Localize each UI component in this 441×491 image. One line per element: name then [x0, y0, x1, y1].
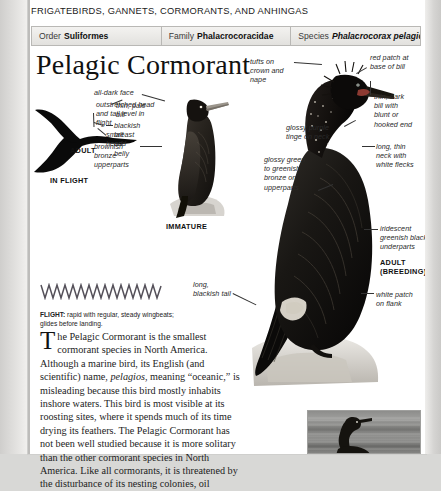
age-label-adult-breeding: ADULT (BREEDING) [380, 258, 426, 276]
page-title: Pelagic Cormorant [36, 49, 250, 81]
taxonomy-label-family: Family [169, 31, 194, 41]
taxonomy-bar: Order Suliformes Family Phalacrocoracida… [31, 26, 421, 46]
callout-white-patch: white patch on flank [376, 290, 426, 308]
page-right-edge [425, 0, 441, 454]
page-gutter [28, 0, 30, 454]
leader-white-patch [361, 293, 374, 294]
callout-long-thin-neck: long, thin neck with white flecks [376, 142, 424, 170]
flight-pattern-squiggle [40, 283, 162, 300]
leader-iridescent [364, 229, 378, 230]
age-label-adult-flight: ADULT [70, 146, 96, 155]
taxonomy-label-species: Species [298, 31, 329, 41]
page-sheet: FRIGATEBIRDS, GANNETS, CORMORANTS, AND A… [28, 0, 426, 454]
description-part-b: , meaning “oceanic,” is misleading becau… [40, 371, 240, 489]
immature-bird-illustration [168, 88, 230, 220]
callout-thin-pale-bill: thin, pale bill [116, 101, 156, 119]
running-head: FRIGATEBIRDS, GANNETS, CORMORANTS, AND A… [31, 6, 423, 16]
adult-breeding-bird-illustration [248, 52, 394, 392]
drop-cap: T [40, 330, 57, 351]
taxonomy-cell-family: Family Phalacrocoracidae [162, 27, 292, 45]
age-label-adult: ADULT [380, 258, 406, 267]
habitat-photo [307, 410, 421, 454]
callout-glossy-green: glossy green to greenish bronze on upper… [264, 155, 320, 192]
taxonomy-value-species: Phalacrocorax pelagicus [332, 31, 420, 41]
callout-red-patch: red patch at base of bill [370, 53, 426, 71]
taxonomy-value-family: Phalacrocoracidae [197, 31, 273, 41]
callout-thin-dark-bill: thin, dark bill with blunt or hooked end [374, 92, 424, 129]
age-label-breeding: (BREEDING) [380, 267, 426, 276]
leader-brownish [140, 146, 162, 147]
habitat-photo-image [308, 411, 421, 454]
species-description: The Pelagic Cormorant is the smallest co… [40, 330, 245, 491]
callout-tufts: tufts on crown and nape [250, 57, 296, 85]
leader-thin-dark-bill [370, 81, 371, 95]
leader-long-thin-neck [362, 146, 375, 147]
taxonomy-cell-order: Order Suliformes [32, 27, 162, 45]
callout-all-dark-face: all-dark face [94, 88, 148, 97]
taxonomy-label-order: Order [39, 31, 61, 41]
page-left-edge [0, 0, 28, 454]
flight-label: FLIGHT: [40, 311, 65, 318]
callout-glossy-purple: glossy purple tinge on neck [286, 123, 344, 141]
description-italic-term: pelagios [110, 371, 145, 382]
taxonomy-cell-species: Species Phalacrocorax pelagicus [291, 27, 420, 45]
age-label-in-flight: IN FLIGHT [50, 176, 88, 185]
callout-brownish-upperparts: brownish bronze upperparts [94, 142, 140, 170]
taxonomy-value-order: Suliformes [64, 31, 108, 41]
age-label-immature: IMMATURE [166, 222, 207, 231]
flight-description: FLIGHT: rapid with regular, steady wingb… [40, 302, 190, 329]
leader-blackish-breast [106, 125, 113, 126]
